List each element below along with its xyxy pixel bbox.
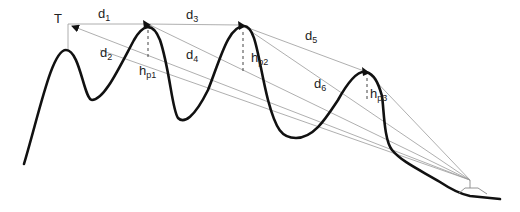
ray-p3-receiver — [367, 72, 470, 180]
label-hp2: hp2 — [251, 50, 268, 67]
receiver-antenna-icon — [458, 180, 487, 194]
ray-d2 — [72, 26, 470, 180]
label-d2: d2 — [100, 45, 112, 62]
ray-d4 — [148, 24, 470, 180]
label-d1: d1 — [98, 6, 110, 23]
ray-d3 — [148, 24, 240, 25]
label-d3: d3 — [186, 7, 198, 24]
terrain-profile — [24, 26, 500, 199]
label-d6: d6 — [314, 76, 326, 93]
label-d5: d5 — [305, 28, 317, 45]
transmitter-label: T — [54, 11, 62, 26]
ray-d6 — [243, 26, 470, 180]
multi-knife-edge-diffraction-diagram: T d1 d2 d3 d4 d5 d6 hp1 hp2 hp3 — [0, 0, 520, 212]
label-d4: d4 — [186, 47, 198, 64]
label-hp1: hp1 — [139, 63, 156, 80]
